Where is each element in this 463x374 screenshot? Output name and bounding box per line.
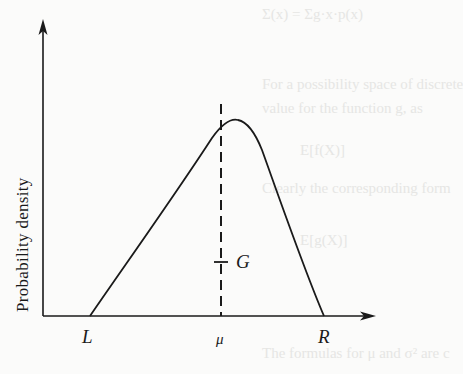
y-axis-label: Probability density — [13, 177, 33, 312]
mean-label: μ — [216, 331, 224, 348]
density-curve — [90, 120, 324, 316]
left-bound-label: L — [82, 326, 93, 348]
centroid-label: G — [236, 251, 250, 273]
right-bound-label: R — [318, 326, 330, 348]
